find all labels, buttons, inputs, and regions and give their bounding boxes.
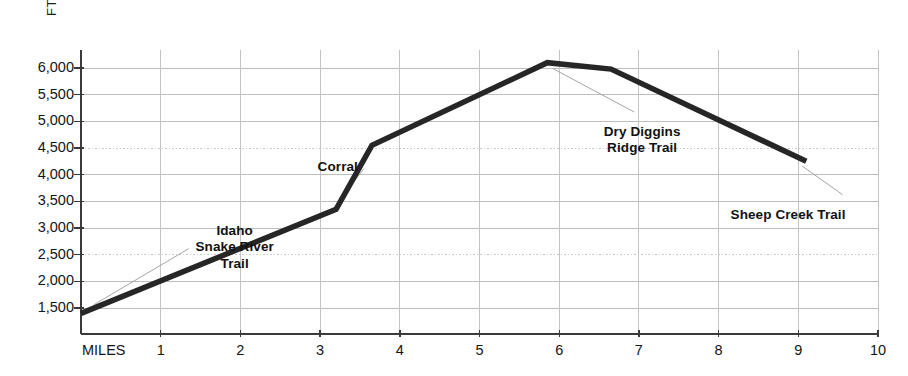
- leader-line-sheep-creek-trail: [802, 166, 842, 195]
- chart-canvas: [0, 0, 908, 376]
- y-axis-tick-label: 1,500: [38, 300, 74, 315]
- annotation-sheep-creek-trail: Sheep Creek Trail: [731, 207, 901, 223]
- x-axis-tick-label: 5: [460, 343, 500, 358]
- x-axis-tick-label: 4: [380, 343, 420, 358]
- x-axis-tick-label: 6: [539, 343, 579, 358]
- annotation-idaho-snake-river-trail: Idaho Snake River Trail: [165, 223, 305, 272]
- elevation-line-series: [81, 63, 806, 314]
- x-axis-tick-label: 8: [699, 343, 739, 358]
- elevation-profile-chart: FT 1,5002,0002,5003,0003,5004,0004,5005,…: [0, 0, 908, 376]
- x-axis-tick-label: 9: [778, 343, 818, 358]
- annotation-dry-diggins-ridge-trail: Dry Diggins Ridge Trail: [567, 124, 717, 157]
- y-axis-tick-label: 3,500: [38, 193, 74, 208]
- y-axis-tick-marks: [74, 68, 84, 308]
- y-axis-tick-label: 2,000: [38, 273, 74, 288]
- x-axis-tick-label: 3: [300, 343, 340, 358]
- elevation-line: [81, 63, 806, 314]
- x-axis-unit-label: MILES: [82, 343, 126, 358]
- y-axis-tick-labels: 1,5002,0002,5003,0003,5004,0004,5005,000…: [0, 0, 74, 376]
- annotation-corral: Corral: [298, 159, 378, 175]
- x-axis-tick-label: 7: [619, 343, 659, 358]
- x-axis-tick-label: 1: [141, 343, 181, 358]
- y-axis-tick-label: 4,000: [38, 167, 74, 182]
- y-axis-tick-label: 5,000: [38, 113, 74, 128]
- y-axis-tick-label: 4,500: [38, 140, 74, 155]
- vertical-gridlines: [161, 50, 878, 334]
- y-axis-tick-label: 6,000: [38, 60, 74, 75]
- x-axis-tick-label: 10: [858, 343, 898, 358]
- y-axis-tick-label: 5,500: [38, 87, 74, 102]
- y-axis-tick-label: 3,000: [38, 220, 74, 235]
- x-axis-tick-label: 2: [220, 343, 260, 358]
- y-axis-tick-label: 2,500: [38, 247, 74, 262]
